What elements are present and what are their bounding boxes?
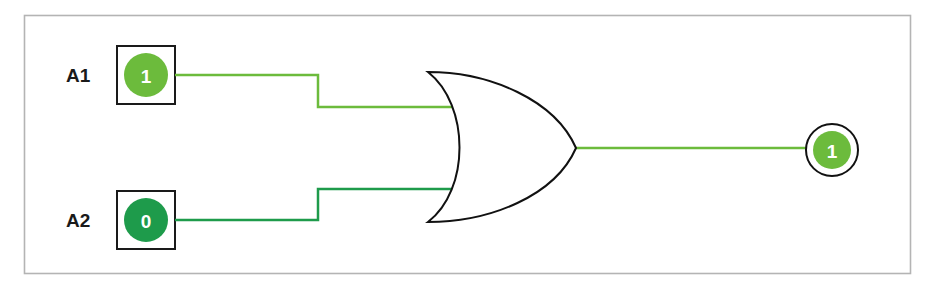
- output-node: 1: [806, 124, 858, 176]
- wire-a2-to-gate: [175, 189, 458, 220]
- input-a2-label: A2: [66, 210, 90, 231]
- output-value: 1: [827, 141, 838, 162]
- input-a1: A1 1: [66, 46, 175, 104]
- input-a1-value: 1: [141, 66, 152, 87]
- wire-a1-to-gate: [175, 75, 458, 107]
- logic-diagram: A1 1 A2 0 1: [0, 0, 939, 282]
- input-a1-label: A1: [66, 65, 91, 86]
- input-a2-value: 0: [141, 211, 152, 232]
- input-a2: A2 0: [66, 191, 175, 249]
- or-gate-icon: [428, 72, 576, 222]
